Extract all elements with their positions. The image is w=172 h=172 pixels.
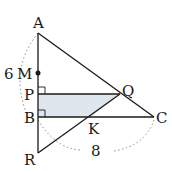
dotted-arc-bc-right [114,120,154,151]
label-k: K [88,120,100,138]
dotted-arc-bc-left [38,120,80,150]
geometry-diagram: A 6 M P B R Q K C 8 [0,0,172,172]
label-q: Q [122,82,134,100]
label-b: B [24,109,35,127]
diagram-svg: A 6 M P B R Q K C 8 [0,0,172,172]
shaded-trapezoid-pqkb [38,94,120,117]
label-eight: 8 [91,142,101,160]
point-m-dot [36,71,41,76]
label-c: C [156,109,167,127]
label-r: R [24,151,36,169]
label-six: 6 [4,65,14,83]
label-p: P [24,86,34,104]
label-m: M [17,65,32,83]
right-angle-mark-p [38,87,45,94]
label-a: A [32,14,44,32]
